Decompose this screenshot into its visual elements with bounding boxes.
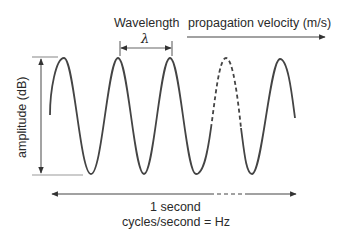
wavelength-label: Wavelength	[114, 17, 180, 30]
amplitude-label: amplitude (dB)	[16, 75, 29, 159]
sine-wave-dashed	[211, 58, 241, 128]
duration-label: 1 second	[150, 201, 201, 214]
sine-wave-solid-end	[241, 59, 295, 174]
lambda-symbol: λ	[141, 32, 149, 45]
frequency-label: cycles/second = Hz	[122, 216, 230, 229]
sine-wave-solid	[50, 58, 211, 174]
propagation-label: propagation velocity (m/s)	[188, 17, 331, 30]
